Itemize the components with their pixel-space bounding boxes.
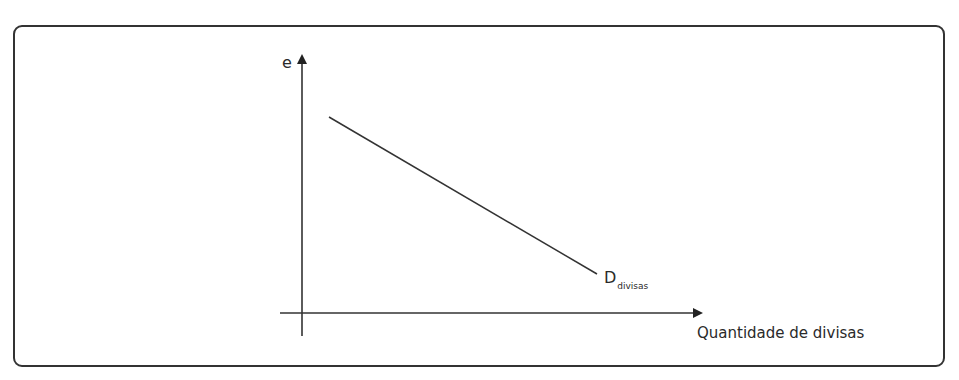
demand-diagram [0, 0, 959, 380]
x-axis-label: Quantidade de divisas [697, 326, 864, 341]
y-axis-label: e [282, 55, 292, 71]
curve-label-main: D [604, 268, 616, 287]
demand-curve-label: Ddivisas [604, 270, 648, 286]
demand-curve [329, 117, 597, 274]
curve-label-subscript: divisas [617, 281, 648, 291]
